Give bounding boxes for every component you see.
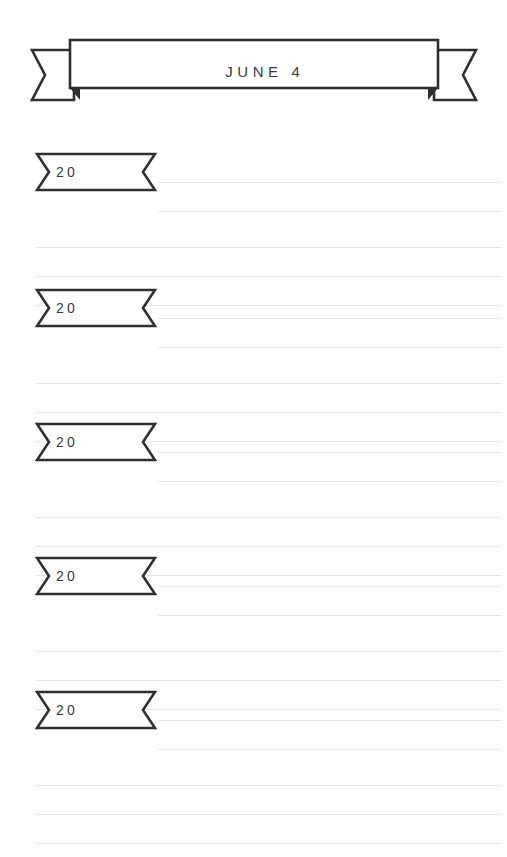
writing-rule-line[interactable] [158, 182, 502, 183]
year-label[interactable]: 20 [35, 690, 157, 730]
writing-rule-line[interactable] [35, 546, 502, 547]
writing-rule-line[interactable] [158, 211, 502, 212]
writing-rule-line[interactable] [158, 318, 502, 319]
writing-rule-line[interactable] [35, 680, 502, 681]
writing-rule-line[interactable] [158, 720, 502, 721]
writing-rule-line[interactable] [35, 814, 502, 815]
year-label[interactable]: 20 [35, 288, 157, 328]
writing-rule-line[interactable] [158, 615, 502, 616]
writing-rule-line[interactable] [158, 586, 502, 587]
writing-rule-line[interactable] [158, 452, 502, 453]
writing-rule-line[interactable] [35, 785, 502, 786]
writing-rule-line[interactable] [35, 247, 502, 248]
writing-rule-line[interactable] [158, 347, 502, 348]
writing-rule-line[interactable] [35, 651, 502, 652]
journal-page: JUNE 4 2020202020 [0, 0, 507, 857]
banner-left-tail-icon [32, 50, 74, 100]
writing-rule-line[interactable] [35, 517, 502, 518]
writing-rule-line[interactable] [35, 276, 502, 277]
title-banner: JUNE 4 [28, 38, 480, 104]
writing-rule-line[interactable] [35, 412, 502, 413]
year-label[interactable]: 20 [35, 556, 157, 596]
writing-rule-line[interactable] [35, 843, 502, 844]
writing-rule-line[interactable] [158, 481, 502, 482]
writing-rule-line[interactable] [35, 383, 502, 384]
writing-rule-line[interactable] [158, 749, 502, 750]
page-title: JUNE 4 [70, 38, 455, 104]
year-label[interactable]: 20 [35, 152, 157, 192]
year-label[interactable]: 20 [35, 422, 157, 462]
